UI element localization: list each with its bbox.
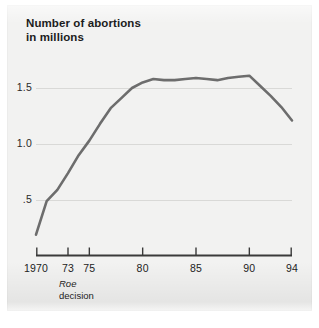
roe-decision-annotation: Roe decision <box>59 278 94 301</box>
chart-title: Number of abortions in millions <box>26 17 226 44</box>
plot-area <box>36 60 292 256</box>
roe-label: Roe <box>59 278 94 290</box>
x-tick-label: 85 <box>190 262 202 274</box>
figure: Number of abortions in millions .51.01.5… <box>0 0 319 328</box>
y-tick-label: 1.0 <box>0 137 32 149</box>
y-tick-label: .5 <box>0 193 32 205</box>
x-tick-label: 94 <box>286 262 298 274</box>
x-tick-label: 90 <box>243 262 255 274</box>
x-tick-label: 75 <box>83 262 95 274</box>
series-line <box>36 60 292 256</box>
x-tick-label: 73 <box>62 262 74 274</box>
decision-label: decision <box>59 290 94 302</box>
y-tick-label: 1.5 <box>0 81 32 93</box>
x-tick-label: 1970 <box>24 262 48 274</box>
x-axis-labels: 1970737580859094 <box>0 262 319 278</box>
x-tick-label: 80 <box>137 262 149 274</box>
x-axis <box>36 247 292 261</box>
